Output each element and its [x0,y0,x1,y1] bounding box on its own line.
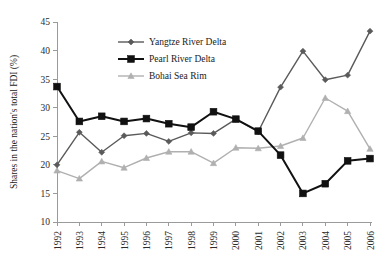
legend-item-bohai-sea-rim[interactable]: Bohai Sea Rim [118,71,207,81]
data-point-marker [345,108,351,114]
y-tick-label: 35 [41,75,51,85]
data-point-marker [277,152,284,159]
y-tick-label: 20 [41,160,51,170]
x-tick-label: 1999 [209,231,219,250]
legend-label: Bohai Sea Rim [149,71,207,81]
data-point-marker [98,113,105,120]
y-axis-ticks: 1015202530354045 [41,17,58,227]
data-point-marker [143,115,150,122]
y-axis-title: Shares in the nation's total FDI (%) [9,55,20,189]
x-tick-label: 2004 [321,231,331,250]
legend-item-yangtze-river-delta[interactable]: Yangtze River Delta [118,37,227,47]
y-tick-label: 10 [41,217,51,227]
y-axis-title-text: Shares in the nation's total FDI (%) [9,55,20,189]
data-point-marker [255,128,262,135]
axis-lines [57,22,372,222]
x-tick-label: 1997 [164,231,174,250]
data-point-marker [76,118,83,125]
data-point-marker [367,155,374,162]
data-point-marker [344,157,351,164]
data-point-marker [188,124,195,131]
x-tick-label: 1995 [120,231,130,250]
x-tick-label: 2005 [343,231,353,250]
x-tick-label: 1994 [97,231,107,250]
data-point-marker [128,39,134,45]
data-point-marker [322,180,329,187]
series-bohai-sea-rim [54,95,373,181]
x-tick-label: 2006 [366,231,376,250]
x-axis-ticks: 1992199319941995199619971998199920002001… [53,222,376,250]
x-tick-label: 2001 [254,231,264,250]
x-tick-label: 2000 [231,231,241,250]
data-point-marker [54,167,60,173]
data-point-marker [367,28,373,34]
data-point-marker [166,138,172,144]
y-tick-label: 25 [41,132,51,142]
data-point-marker [128,56,135,63]
legend-label: Pearl River Delta [149,54,216,64]
chart-container: Shares in the nation's total FDI (%) 101… [0,0,385,265]
x-tick-label: 2002 [276,231,286,250]
data-point-marker [165,120,172,127]
y-tick-label: 30 [41,103,51,113]
y-tick-label: 15 [41,189,51,199]
y-tick-label: 45 [41,17,51,27]
x-tick-label: 1996 [142,231,152,250]
data-point-marker [143,130,149,136]
data-point-marker [54,83,61,90]
data-point-marker [99,158,105,164]
data-point-marker [210,108,217,115]
x-tick-label: 1998 [187,231,197,250]
data-point-marker [232,116,239,123]
chart-legend: Yangtze River DeltaPearl River DeltaBoha… [118,37,227,81]
data-point-marker [300,190,307,197]
legend-label: Yangtze River Delta [149,37,227,47]
data-point-marker [367,146,373,152]
y-tick-label: 40 [41,46,51,56]
x-tick-label: 1992 [53,231,63,250]
data-point-marker [300,135,306,141]
x-tick-label: 1993 [75,231,85,250]
x-tick-label: 2003 [298,231,308,250]
legend-item-pearl-river-delta[interactable]: Pearl River Delta [118,54,216,64]
data-point-marker [345,72,351,78]
series-line [57,31,370,165]
fdi-share-line-chart: Shares in the nation's total FDI (%) 101… [0,0,385,265]
data-point-marker [121,118,128,125]
data-point-marker [322,95,328,101]
